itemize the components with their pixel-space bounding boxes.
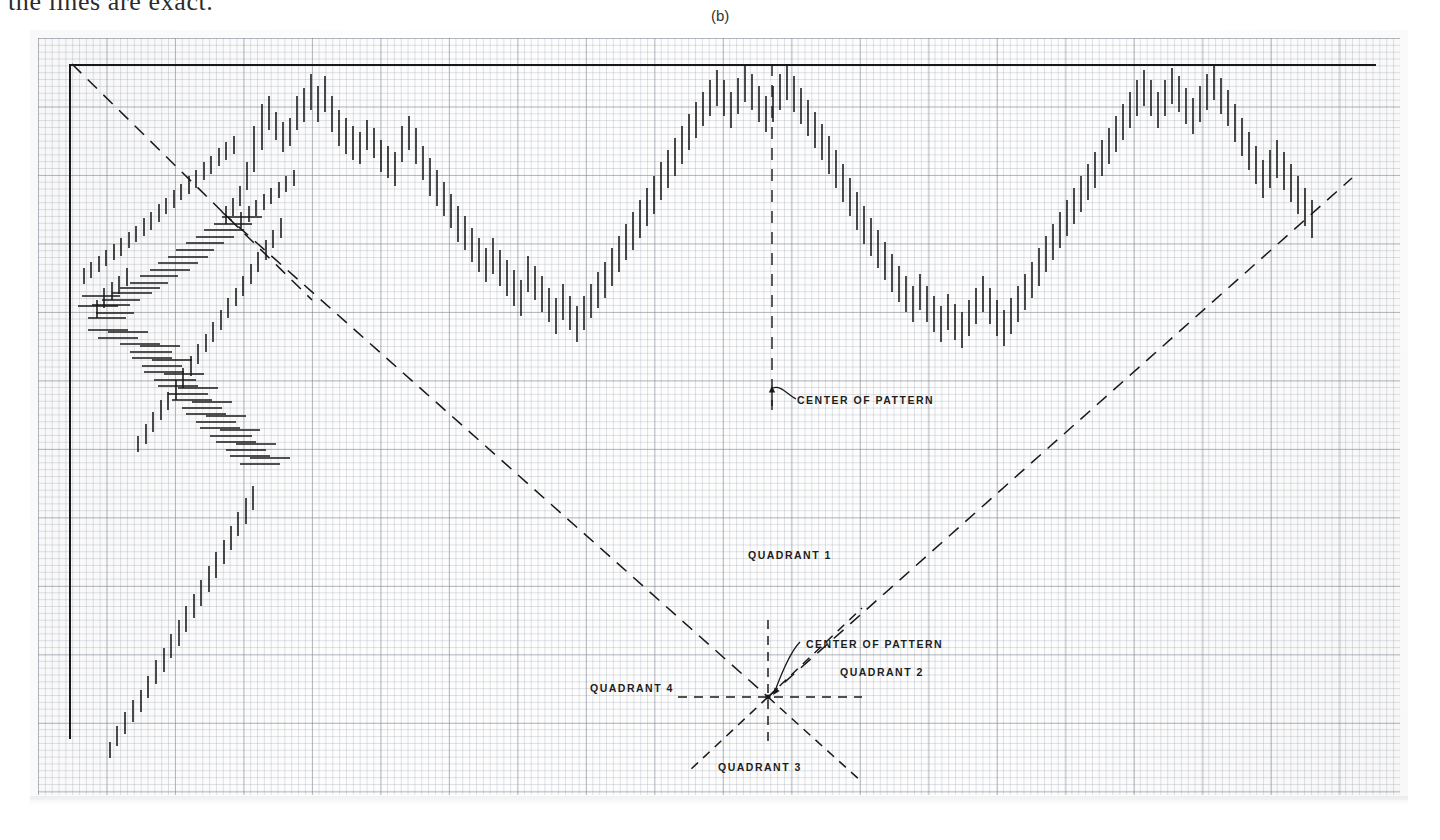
- range-bars-group: [84, 64, 1312, 758]
- trend-line-mid-descending-dashed: [222, 212, 768, 697]
- center-markers-group: [765, 386, 800, 700]
- annotation-quadrant-2: QUADRANT 2: [840, 666, 924, 678]
- annotation-center-of-pattern-top: CENTER OF PATTERN: [797, 394, 934, 406]
- pattern-center-point: [765, 694, 770, 699]
- annotation-center-of-pattern-bottom: CENTER OF PATTERN: [806, 638, 943, 650]
- annotation-quadrant-1: QUADRANT 1: [748, 549, 832, 561]
- center-bottom-leader: [775, 642, 800, 691]
- trend-line-upper-descending-dashed: [72, 64, 312, 300]
- trend-line-cross-diag-up-right: [768, 608, 862, 697]
- trend-line-ascending-dashed: [768, 178, 1352, 697]
- trend-lines-group: [72, 64, 1352, 782]
- center-top-arrowhead: [769, 386, 775, 392]
- annotation-quadrant-3: QUADRANT 3: [718, 761, 802, 773]
- center-top-leader: [773, 387, 796, 399]
- chart-drawing-layer: [0, 0, 1440, 840]
- annotation-quadrant-4: QUADRANT 4: [590, 682, 674, 694]
